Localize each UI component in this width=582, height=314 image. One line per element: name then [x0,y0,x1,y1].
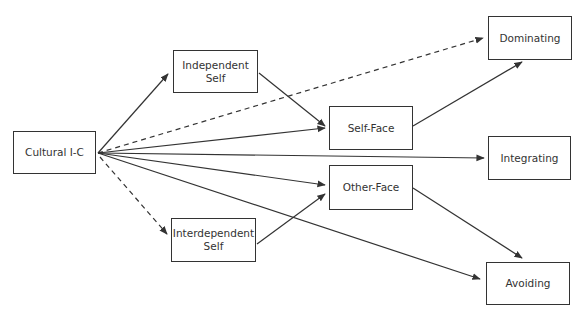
node-avoiding: Avoiding [486,262,570,305]
node-independent-self: Independent Self [173,50,258,93]
node-label: Cultural I-C [25,146,84,159]
edge-cultural-to-dominating [98,38,483,153]
node-cultural-ic: Cultural I-C [13,131,96,174]
node-label: Self-Face [348,122,395,135]
edge-cultural-to-self-face [98,128,325,153]
edge-cultural-to-integrating [98,153,484,158]
node-label: Interdependent Self [173,227,254,253]
edge-self-face-to-dominating [413,62,522,126]
node-dominating: Dominating [488,16,572,60]
node-label: Dominating [499,32,560,45]
edge-independent-to-self-face [259,73,325,126]
node-label: Integrating [500,152,558,165]
node-label: Independent Self [182,59,249,85]
node-integrating: Integrating [488,136,571,180]
node-self-face: Self-Face [329,106,413,150]
edge-cultural-to-other-face [98,153,325,185]
edge-other-face-to-avoiding [413,188,522,258]
node-interdependent-self: Interdependent Self [171,218,256,262]
edge-interdependent-to-other-face [257,194,325,244]
edge-cultural-to-avoiding [98,153,480,279]
node-label: Other-Face [343,181,400,194]
edge-cultural-to-interdependent [100,157,167,234]
edge-cultural-to-independent [98,74,168,153]
node-other-face: Other-Face [329,165,413,210]
node-label: Avoiding [505,277,550,290]
